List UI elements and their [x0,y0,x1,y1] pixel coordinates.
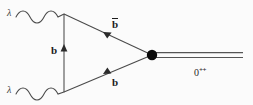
diagram-canvas [0,0,253,105]
feynman-diagram-figure: λ λ b b b 0++ [0,0,253,105]
output-particle-superscript: ++ [199,66,206,74]
output-particle-label: 0++ [194,67,206,78]
loop-left-quark-label: b [51,45,57,56]
photon-top-label: λ [7,8,11,18]
photon-bottom-label: λ [7,85,11,95]
loop-bottom-quark-label: b [112,77,118,88]
loop-top-antiquark-label: b [112,18,118,30]
interaction-vertex-dot [147,50,157,60]
